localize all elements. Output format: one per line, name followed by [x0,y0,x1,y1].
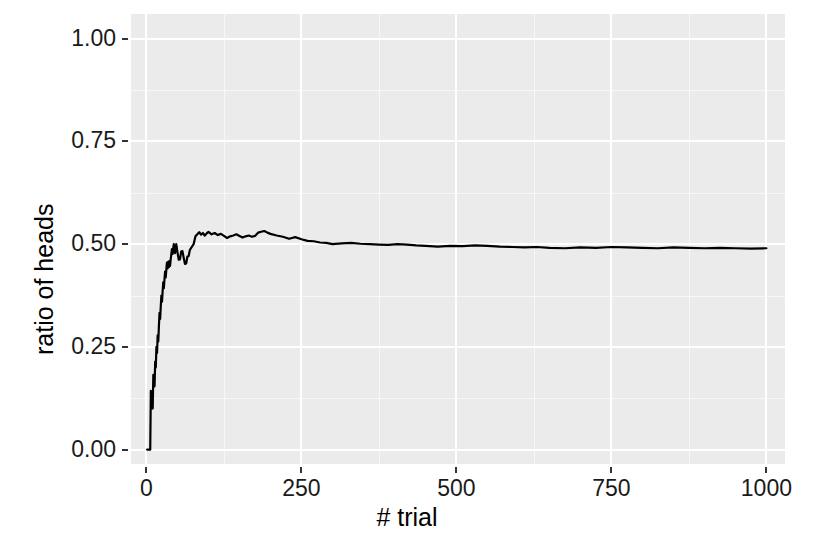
x-tick-label: 250 [251,477,351,500]
x-axis-title: # trial [0,503,814,532]
x-tick-mark [145,467,147,473]
y-tick-label: 0.75 [0,129,116,152]
x-tick-mark [300,467,302,473]
x-tick-mark [610,467,612,473]
x-tick-label: 0 [96,477,196,500]
ratio-of-heads-line [147,231,766,450]
y-axis-title: ratio of heads [30,204,59,356]
y-tick-label: 0.00 [0,438,116,461]
y-tick-mark [122,140,128,142]
x-tick-mark [765,467,767,473]
y-tick-mark [122,346,128,348]
plot-area [131,14,785,464]
y-tick-label: 1.00 [0,27,116,50]
x-tick-label: 1000 [716,477,814,500]
x-tick-label: 500 [406,477,506,500]
y-tick-mark [122,449,128,451]
y-tick-mark [122,243,128,245]
y-tick-mark [122,38,128,40]
plot-panel [131,14,785,464]
x-tick-label: 750 [561,477,661,500]
coin-flip-ratio-chart: 02505007501000 0.000.250.500.751.00 # tr… [0,0,814,554]
x-tick-mark [455,467,457,473]
